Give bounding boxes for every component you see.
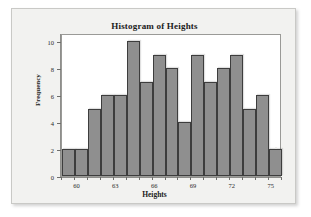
x-axis-tick [281,177,282,180]
y-axis-tick-label: 2 [51,147,54,154]
x-axis-tick-label: 69 [190,182,197,189]
plot-area [62,35,280,176]
x-axis-tick-label: 72 [229,182,236,189]
y-axis-tick [57,69,61,70]
x-axis [61,177,282,178]
histogram-bar [217,68,230,176]
x-axis-tick [177,177,178,180]
y-axis-tick [57,42,61,43]
histogram-bar [256,95,269,176]
histogram-bar [153,55,166,176]
y-axis-tick-label: 4 [51,120,54,127]
x-axis-tick-label: 63 [112,182,119,189]
x-axis-tick [100,177,101,180]
histogram-bar [75,149,88,176]
y-axis-tick [57,96,61,97]
x-axis-tick-label: 75 [267,182,274,189]
y-axis-tick-label: 6 [51,93,54,100]
x-axis-tick [74,177,75,180]
histogram-bar [230,55,243,176]
histogram-bar [166,68,179,176]
histogram-bar [88,109,101,176]
x-axis-tick [165,177,166,180]
histogram-bar [114,95,127,176]
figure-page: Histogram of Heights Frequency Heights 0… [0,0,311,217]
x-axis-tick [242,177,243,180]
x-axis-tick-label: 60 [73,182,80,189]
y-axis-tick [57,123,61,124]
histogram-bar [101,95,114,176]
x-axis-title: Heights [12,190,297,199]
x-axis-tick [216,177,217,180]
histogram-bar [243,109,256,176]
x-axis-tick [139,177,140,180]
histogram-bar [62,149,75,176]
histogram-bar [204,82,217,176]
histogram-bar [178,122,191,176]
x-axis-tick [152,177,153,180]
y-axis-tick-label: 10 [48,39,55,46]
chart-card: Histogram of Heights Frequency Heights 0… [11,8,296,204]
histogram-bar [127,41,140,176]
histogram-bar [140,82,153,176]
x-axis-tick [126,177,127,180]
histogram-bar [269,149,282,176]
x-axis-tick [113,177,114,180]
plot-frame [61,34,281,177]
y-axis-tick-label: 0 [51,174,54,181]
x-axis-tick-label: 66 [151,182,158,189]
chart-title: Histogram of Heights [12,21,297,31]
x-axis-tick [203,177,204,180]
x-axis-tick [268,177,269,180]
x-axis-tick [229,177,230,180]
y-axis-title: Frequency [34,74,42,106]
histogram-bar [191,55,204,176]
x-axis-tick [87,177,88,180]
scan-artifact-speck [275,147,277,149]
x-axis-tick [255,177,256,180]
x-axis-tick [190,177,191,180]
y-axis-tick-label: 8 [51,66,54,73]
y-axis-tick [57,150,61,151]
x-axis-tick [61,177,62,180]
